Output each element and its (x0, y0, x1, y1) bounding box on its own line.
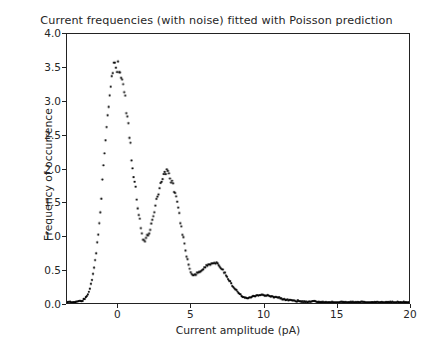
chart-title: Current frequencies (with noise) fitted … (0, 14, 433, 27)
y-tick-mark (62, 135, 66, 136)
x-tick-mark (264, 304, 265, 308)
x-tick-label: 0 (97, 308, 137, 320)
y-tick-mark (62, 67, 66, 68)
x-tick-label: 10 (244, 308, 284, 320)
plot-area (66, 33, 410, 304)
chart-figure: Current frequencies (with noise) fitted … (0, 0, 433, 347)
x-tick-label: 20 (390, 308, 430, 320)
x-tick-mark (337, 304, 338, 308)
y-tick-mark (62, 101, 66, 102)
x-tick-label: 5 (170, 308, 210, 320)
y-tick-mark (62, 270, 66, 271)
scatter-series (67, 34, 409, 303)
y-tick-label: 0.0 (21, 298, 61, 310)
y-tick-mark (62, 169, 66, 170)
y-tick-mark (62, 33, 66, 34)
y-axis-label: Frequency of occurrence (42, 65, 55, 285)
x-tick-mark (190, 304, 191, 308)
y-tick-label: 4.0 (21, 27, 61, 39)
x-axis-label: Current amplitude (pA) (66, 324, 410, 337)
x-tick-label: 15 (317, 308, 357, 320)
y-tick-mark (62, 202, 66, 203)
y-tick-mark (62, 236, 66, 237)
y-tick-mark (62, 304, 66, 305)
x-tick-mark (410, 304, 411, 308)
x-tick-mark (117, 304, 118, 308)
